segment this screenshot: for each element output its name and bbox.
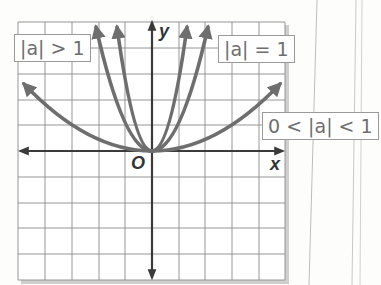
origin-label: O — [131, 153, 145, 174]
x-axis-label: x — [270, 154, 280, 175]
label-abs-a-equals-1: |a| = 1 — [218, 35, 295, 63]
label-abs-a-greater-than-1: |a| > 1 — [14, 34, 91, 62]
label-abs-a-between-0-and-1: 0 < |a| < 1 — [262, 112, 379, 140]
y-axis-label: y — [159, 21, 169, 42]
